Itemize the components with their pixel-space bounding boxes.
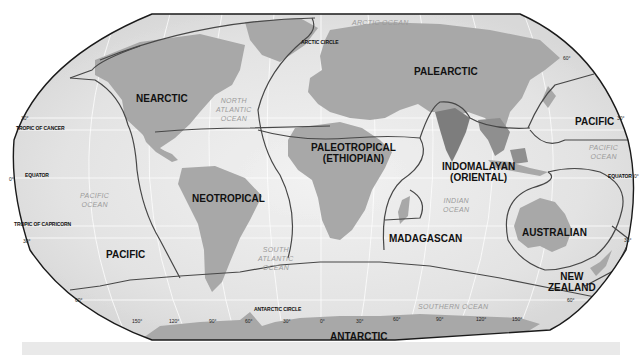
lat-label-right-60s: 60° [567,297,575,303]
ocean-label-pacific-west-line2: OCEAN [80,200,109,209]
realm-label-nearctic: NEARCTIC [136,93,188,104]
footer-bar [22,342,620,355]
ocean-label-pacific-east-line1: PACIFIC [589,143,618,152]
ocean-label-pacific-east: PACIFIC OCEAN [589,143,618,161]
lon-label-60e: 60° [393,316,401,322]
lon-label-90w: 90° [209,318,217,324]
lat-label-left-30n: 30° [21,115,29,121]
realm-label-australian: AUSTRALIAN [522,227,587,238]
ocean-label-south-atlantic-line1: SOUTH [258,245,294,254]
lat-label-left-30s: 30° [23,238,31,244]
ocean-label-pacific-west-line1: PACIFIC [80,191,109,200]
realm-label-indomalayan: INDOMALAYAN (ORIENTAL) [442,161,515,183]
realm-label-palearctic: PALEARCTIC [414,66,478,77]
lon-label-0: 0° [320,318,325,324]
lon-label-120w: 120° [169,318,179,324]
ocean-label-arctic: ARCTIC OCEAN [352,18,409,27]
realm-label-new-zealand-subname: ZEALAND [548,282,596,293]
realm-label-paleotropical-name: PALEOTROPICAL [311,142,396,153]
lon-label-30e: 30° [356,318,364,324]
ocean-label-indian-line1: INDIAN [443,196,469,205]
lat-label-left-60s: 60° [75,297,83,303]
lat-label-right-30s: 30° [624,237,632,243]
world-map [0,0,642,355]
label-tropic-of-cancer: TROPIC OF CANCER [16,125,64,131]
ocean-label-south-atlantic-line3: OCEAN [258,263,294,272]
lon-label-60w: 60° [245,318,253,324]
ocean-label-indian-line2: OCEAN [443,205,469,214]
lat-label-right-0: 0° [634,173,639,179]
realm-label-pacific-west: PACIFIC [106,249,145,260]
label-equator-left: EQUATOR [25,172,49,178]
lat-label-left-0: 0° [9,176,14,182]
realm-label-paleotropical: PALEOTROPICAL (ETHIOPIAN) [311,142,396,164]
lon-label-120e: 120° [476,316,486,322]
ocean-label-pacific-east-line2: OCEAN [589,152,618,161]
lon-label-150e: 150° [512,316,522,322]
ocean-label-southern: SOUTHERN OCEAN [418,302,488,311]
ocean-label-north-atlantic-line2: ATLANTIC [216,105,252,114]
realm-label-antarctic: ANTARCTIC [330,331,388,342]
ocean-label-north-atlantic: NORTH ATLANTIC OCEAN [216,96,252,123]
realm-label-new-zealand: NEW ZEALAND [548,271,596,293]
lon-label-30w: 30° [283,318,291,324]
realm-label-new-zealand-name: NEW [548,271,596,282]
ocean-label-north-atlantic-line1: NORTH [216,96,252,105]
lat-label-right-30n: 30° [617,115,625,121]
ocean-label-indian: INDIAN OCEAN [443,196,469,214]
realm-label-madagascan: MADAGASCAN [389,233,462,244]
ocean-label-south-atlantic-line2: ATLANTIC [258,254,294,263]
realm-label-indomalayan-subname: (ORIENTAL) [442,172,515,183]
label-tropic-of-capricorn: TROPIC OF CAPRICORN [14,221,71,227]
label-arctic-circle: ARCTIC CIRCLE [301,39,339,45]
ocean-label-pacific-west: PACIFIC OCEAN [80,191,109,209]
label-equator-right: EQUATOR [608,173,632,179]
lon-label-90e: 90° [436,316,444,322]
ocean-label-south-atlantic: SOUTH ATLANTIC OCEAN [258,245,294,272]
realm-label-indomalayan-name: INDOMALAYAN [442,161,515,172]
ocean-label-north-atlantic-line3: OCEAN [216,114,252,123]
realm-label-neotropical: NEOTROPICAL [192,193,265,204]
realm-label-paleotropical-subname: (ETHIOPIAN) [311,153,396,164]
label-antarctic-circle: ANTARCTIC CIRCLE [254,306,301,312]
realm-label-pacific-east: PACIFIC [575,116,614,127]
lat-label-right-60n: 60° [563,55,571,61]
lon-label-150w: 150° [132,318,142,324]
